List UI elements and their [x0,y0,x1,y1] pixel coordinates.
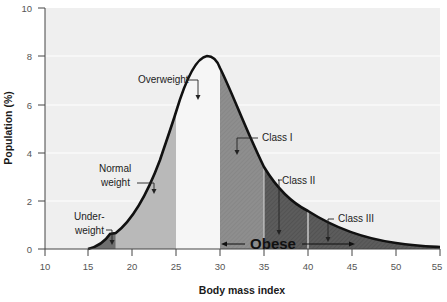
x-tick: 50 [391,261,402,272]
underweight-label-line1: Under- [74,211,105,222]
y-tick: 6 [27,100,32,111]
x-tick: 40 [303,261,314,272]
class-3-label: Class III [338,213,374,224]
x-tick: 35 [259,261,270,272]
y-tick: 10 [21,3,32,14]
normal-weight-label-line2: weight [100,177,130,188]
y-axis-title: Population (%) [2,91,14,165]
class-1-label: Class I [262,132,293,143]
y-tick-labels: 10 8 6 4 2 0 [21,3,32,255]
x-tick: 15 [83,261,94,272]
x-tick: 30 [215,261,226,272]
class-2-label: Class II [282,175,315,186]
x-tick: 25 [171,261,182,272]
overweight-label: Overweight [138,74,189,85]
x-tick: 20 [127,261,138,272]
x-tick: 45 [347,261,358,272]
y-tick: 2 [27,196,32,207]
x-tick-labels: 10 15 20 25 30 35 40 45 50 55 [40,261,443,272]
y-tick: 8 [27,51,32,62]
bmi-chart: 10 8 6 4 2 0 10 15 20 25 30 35 40 45 50 … [0,0,447,302]
obese-label: Obese [250,235,296,252]
normal-weight-label-line1: Normal [99,163,131,174]
x-tick: 55 [432,261,443,272]
underweight-label-line2: weight [74,225,104,236]
x-tick: 10 [40,261,51,272]
y-tick: 4 [27,148,32,159]
x-axis-title: Body mass index [199,284,286,296]
y-tick: 0 [27,244,32,255]
